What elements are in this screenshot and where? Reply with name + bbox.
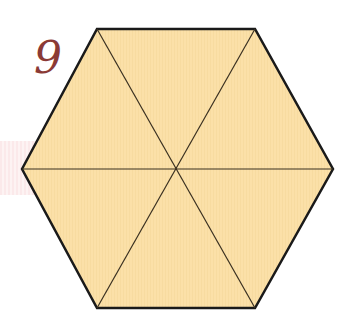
figure-number-label: 9 [34, 36, 62, 80]
